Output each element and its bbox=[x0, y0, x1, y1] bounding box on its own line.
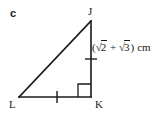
sqrt-term-2: √3 bbox=[119, 41, 131, 53]
right-angle-marker bbox=[78, 84, 91, 97]
vertex-label-l: L bbox=[9, 99, 16, 110]
triangle-side-lj-hypotenuse bbox=[19, 21, 91, 97]
side-length-label: (√2 + √3)cm bbox=[92, 41, 151, 53]
close-paren: ) bbox=[130, 41, 134, 53]
vertex-label-k: K bbox=[95, 99, 103, 110]
sqrt-term-1: √2 bbox=[96, 41, 108, 53]
unit-label: cm bbox=[137, 41, 150, 53]
radicand-1: 2 bbox=[101, 40, 108, 53]
vertex-label-j: J bbox=[88, 6, 92, 17]
geometry-figure: c J K L (√2 + √3)cm bbox=[0, 0, 166, 119]
plus-operator: + bbox=[110, 41, 116, 53]
triangle-diagram bbox=[0, 0, 166, 119]
